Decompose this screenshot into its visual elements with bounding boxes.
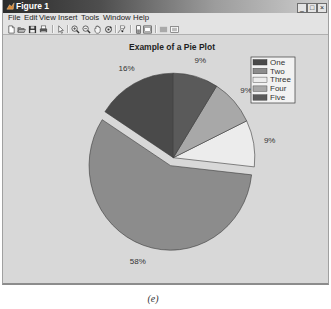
chart-title: Example of a Pie Plot bbox=[129, 42, 215, 52]
legend-swatch bbox=[253, 77, 267, 83]
legend-swatch bbox=[253, 86, 267, 92]
figure-caption: (e) bbox=[141, 293, 165, 304]
legend-label: Five bbox=[270, 93, 286, 102]
pie-percent-label: 9% bbox=[195, 56, 207, 65]
pie-percent-label: 9% bbox=[264, 136, 276, 145]
legend-swatch bbox=[253, 95, 267, 101]
pie-chart: Example of a Pie Plot 16%58%9%9%9% One T… bbox=[0, 0, 331, 309]
legend-swatch bbox=[253, 68, 267, 74]
legend-label: Four bbox=[270, 84, 287, 93]
pie-percent-label: 58% bbox=[130, 257, 146, 266]
legend-label: Three bbox=[270, 75, 291, 84]
pie-slices bbox=[89, 73, 255, 250]
legend-label: One bbox=[270, 58, 286, 67]
legend-label: Two bbox=[270, 67, 285, 76]
legend-swatch bbox=[253, 60, 267, 66]
pie-percent-label: 16% bbox=[119, 64, 135, 73]
legend[interactable]: One Two Three Four Five bbox=[251, 57, 295, 103]
pie-percent-label: 9% bbox=[240, 86, 252, 95]
